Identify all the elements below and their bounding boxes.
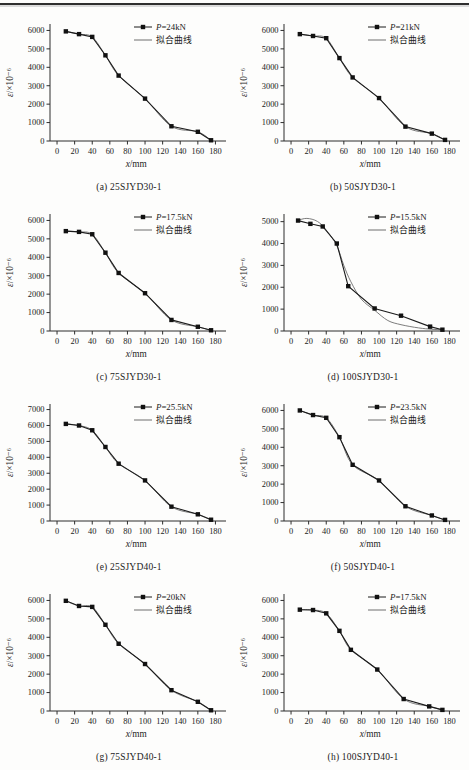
data-point-marker (443, 518, 447, 522)
x-tick-label: 180 (209, 337, 222, 346)
legend-label-load: P=24kN (155, 22, 187, 32)
y-tick-label: 2000 (262, 283, 279, 292)
x-tick-label: 0 (55, 337, 59, 346)
data-point-marker (440, 708, 444, 712)
y-tick-label: 2000 (28, 485, 45, 494)
page: 0100020003000400050006000020406080100120… (0, 0, 469, 770)
x-tick-label: 40 (88, 717, 96, 726)
data-point-marker (296, 218, 300, 222)
x-tick-label: 140 (408, 527, 421, 536)
data-series-line (298, 221, 442, 330)
y-tick-label: 1000 (28, 118, 45, 127)
y-tick-label: 3000 (28, 652, 45, 661)
x-axis-label: x/mm (359, 729, 382, 739)
x-tick-label: 140 (174, 147, 187, 156)
x-tick-label: 80 (123, 147, 131, 156)
x-tick-label: 20 (304, 527, 312, 536)
x-tick-label: 120 (390, 717, 403, 726)
data-series-line (300, 34, 445, 140)
figure-a: 0100020003000400050006000020406080100120… (0, 9, 234, 199)
x-tick-label: 140 (408, 147, 421, 156)
legend-label-fit: 拟合曲线 (390, 604, 426, 615)
page-header-rule (0, 3, 469, 5)
figure-e: 0100020003000400050006000700002040608010… (0, 389, 234, 579)
legend-label-fit: 拟合曲线 (156, 604, 192, 615)
y-tick-label: 4000 (262, 63, 279, 72)
y-tick-label: 0 (40, 137, 44, 146)
data-point-marker (169, 124, 173, 128)
y-tick-label: 2000 (28, 670, 45, 679)
x-tick-label: 0 (55, 717, 59, 726)
data-point-marker (209, 138, 213, 142)
fit-curve-line (66, 31, 211, 140)
legend-label-load: P=21kN (389, 22, 421, 32)
data-point-marker (169, 318, 173, 322)
x-tick-label: 20 (304, 337, 312, 346)
y-tick-label: 4000 (262, 633, 279, 642)
y-tick-label: 6000 (28, 596, 45, 605)
data-point-marker (90, 232, 94, 236)
data-point-marker (143, 478, 147, 482)
data-point-marker (375, 667, 379, 671)
figure-caption-e: (e) 25SJYD40-1 (0, 561, 234, 573)
x-tick-label: 160 (192, 337, 205, 346)
chart-f: 0100020003000400050006000020406080100120… (234, 389, 468, 561)
y-tick-label: 4000 (28, 633, 45, 642)
y-axis-label: ε/×10⁻⁶ (5, 258, 15, 287)
x-tick-label: 180 (209, 717, 222, 726)
figure-caption-g: (g) 75SJYD40-1 (0, 751, 234, 763)
y-axis-label: ε/×10⁻⁶ (239, 448, 249, 477)
y-tick-label: 6000 (262, 596, 279, 605)
x-tick-label: 120 (156, 147, 169, 156)
x-tick-label: 140 (174, 337, 187, 346)
x-tick-label: 40 (88, 147, 96, 156)
x-tick-label: 0 (55, 527, 59, 536)
data-series-line (300, 610, 443, 710)
data-point-marker (298, 607, 302, 611)
x-tick-label: 120 (390, 527, 403, 536)
figure-caption-a: (a) 25SJYD30-1 (0, 181, 234, 193)
x-tick-label: 60 (340, 147, 348, 156)
data-point-marker (430, 131, 434, 135)
x-tick-label: 160 (426, 717, 439, 726)
legend-square-marker (375, 405, 379, 409)
data-point-marker (298, 408, 302, 412)
chart-e: 0100020003000400050006000700002040608010… (0, 389, 234, 561)
data-point-marker (77, 423, 81, 427)
data-series-line (66, 31, 211, 140)
x-tick-label: 60 (106, 337, 114, 346)
data-point-marker (103, 623, 107, 627)
data-point-marker (346, 284, 350, 288)
data-point-marker (350, 75, 354, 79)
data-point-marker (321, 224, 325, 228)
x-tick-label: 140 (174, 717, 187, 726)
x-tick-label: 20 (70, 337, 78, 346)
y-tick-label: 2000 (28, 290, 45, 299)
legend-label-load: P=17.5kN (155, 212, 193, 222)
data-point-marker (209, 708, 213, 712)
data-point-marker (335, 241, 339, 245)
data-series-line (66, 424, 211, 520)
data-point-marker (143, 662, 147, 666)
y-tick-label: 5000 (28, 45, 45, 54)
legend-label-load: P=25.5kN (155, 402, 193, 412)
charts-grid: 0100020003000400050006000020406080100120… (0, 9, 469, 769)
x-tick-label: 100 (373, 337, 386, 346)
y-tick-label: 1000 (262, 498, 279, 507)
data-point-marker (349, 648, 353, 652)
y-tick-label: 0 (40, 327, 44, 336)
chart-b: 0100020003000400050006000020406080100120… (234, 9, 468, 181)
x-tick-label: 40 (322, 527, 330, 536)
x-tick-label: 80 (123, 337, 131, 346)
figure-h: 0100020003000400050006000020406080100120… (234, 579, 468, 769)
data-series-line (66, 601, 211, 711)
figure-d: 0100020003000400050000204060801001201401… (234, 199, 468, 389)
data-point-marker (90, 605, 94, 609)
data-point-marker (324, 36, 328, 40)
y-tick-label: 5000 (28, 437, 45, 446)
legend-square-marker (141, 215, 145, 219)
y-tick-label: 0 (40, 707, 44, 716)
legend-label-fit: 拟合曲线 (156, 414, 192, 425)
data-point-marker (298, 32, 302, 36)
x-axis-label: x/mm (359, 349, 382, 359)
